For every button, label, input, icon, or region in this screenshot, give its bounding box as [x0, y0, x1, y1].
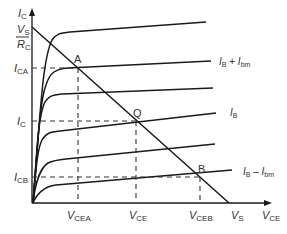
- point-q-label: Q: [133, 107, 142, 119]
- curve-label-ib: IB: [230, 107, 238, 119]
- svg-text:VS: VS: [17, 23, 30, 37]
- curve-label-ib-minus-ibm: IB – Ibm: [243, 166, 274, 178]
- tick-icb: ICB: [14, 171, 28, 185]
- curve-ib: [33, 113, 216, 203]
- transistor-characteristics-diagram: IC VS RC ICA IC ICB VCEA VCE VCEB VS VCE…: [0, 0, 287, 234]
- x-axis-arrow-icon: [264, 200, 272, 206]
- tick-vs-over-rc: VS RC: [16, 23, 31, 52]
- point-a-label: A: [74, 53, 82, 65]
- tick-vce: VCE: [129, 209, 147, 223]
- x-axis-label: VCE: [262, 209, 280, 223]
- tick-ic: IC: [17, 115, 26, 129]
- curve-mid-upper: [33, 88, 213, 203]
- point-b-label: B: [198, 163, 205, 175]
- tick-vs: VS: [231, 209, 244, 223]
- curve-top: [33, 22, 206, 203]
- y-axis-label: IC: [18, 7, 27, 21]
- dashed-guides: [32, 68, 200, 203]
- curve-label-ib-plus-ibm: IB + Ibm: [219, 56, 251, 68]
- y-axis-arrow-icon: [29, 8, 35, 16]
- tick-ica: ICA: [14, 62, 29, 76]
- tick-vceb: VCEB: [189, 209, 213, 223]
- tick-vcea: VCEA: [67, 209, 91, 223]
- curve-ib-plus-ibm: [33, 61, 211, 203]
- svg-text:RC: RC: [17, 38, 31, 52]
